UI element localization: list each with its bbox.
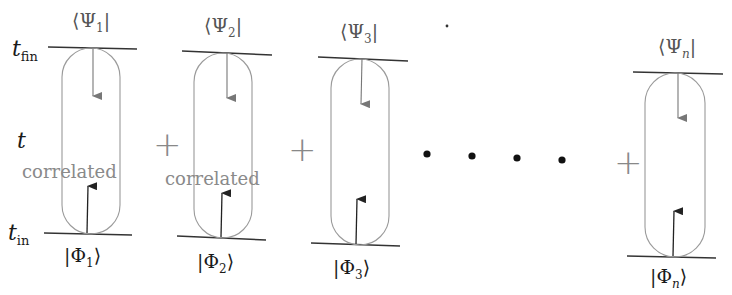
ellipsis-dots xyxy=(423,25,565,164)
t-fin-label: tfin xyxy=(12,36,38,64)
plus-operator-2: + xyxy=(288,132,317,166)
arrow-up-icon xyxy=(87,186,88,233)
propagator-loop xyxy=(331,59,389,245)
plus-operator-1: + xyxy=(153,127,182,161)
ket-phi-n: |Φn⟩ xyxy=(650,265,687,291)
arrow-up-icon xyxy=(221,193,222,237)
t-label: t xyxy=(17,128,26,153)
arrow-up-icon xyxy=(673,211,674,256)
t-in-label: tin xyxy=(8,220,29,248)
ket-phi-1: |Φ1⟩ xyxy=(64,244,101,270)
stray-dot xyxy=(446,25,449,28)
propagator-loop xyxy=(194,53,252,238)
arrow-up-icon xyxy=(356,199,357,244)
arrow-down-icon xyxy=(361,59,362,104)
propagator-loop xyxy=(645,73,705,257)
correlated-label-2: correlated xyxy=(165,168,260,189)
ket-phi-2: |Φ2⟩ xyxy=(197,250,234,276)
bra-psi-n: ⟨Ψn| xyxy=(658,35,696,61)
bra-psi-1: ⟨Ψ1| xyxy=(72,9,110,35)
ket-phi-3: |Φ3⟩ xyxy=(333,256,370,282)
propagator-loop xyxy=(62,48,120,234)
plus-operator-3: + xyxy=(614,145,643,179)
term-3-diagram xyxy=(311,57,408,246)
bra-psi-3: ⟨Ψ3| xyxy=(340,20,378,46)
bra-psi-2: ⟨Ψ2| xyxy=(204,14,242,40)
correlated-label-1: correlated xyxy=(22,161,117,182)
term-1-diagram xyxy=(44,47,137,235)
term-2-diagram xyxy=(177,51,272,240)
